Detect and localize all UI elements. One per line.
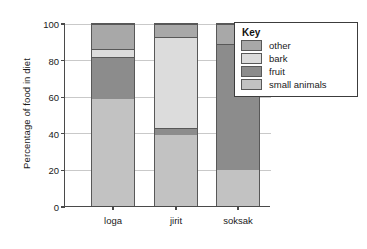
y-tick-label: 40: [48, 128, 59, 139]
y-tick-mark: [61, 60, 65, 61]
legend-title: Key: [242, 27, 351, 38]
legend-label: small animals: [269, 79, 327, 90]
legend-item-fruit: fruit: [241, 66, 351, 77]
x-tick-label-jirit: jirit: [170, 215, 182, 226]
legend-label: bark: [269, 53, 287, 64]
x-tick-mark: [175, 206, 176, 210]
bar-segment-small-animals: [217, 170, 259, 206]
x-tick-mark: [237, 206, 238, 210]
x-tick-label-loga: loga: [104, 215, 122, 226]
legend-swatch-icon: [241, 79, 262, 90]
bar-segment-bark: [155, 37, 197, 128]
bar-segment-other: [155, 24, 197, 37]
bar-segment-small-animals: [155, 135, 197, 206]
legend-label: fruit: [269, 66, 285, 77]
y-tick-mark: [61, 23, 65, 24]
y-axis-title: Percentage of food in diet: [21, 24, 32, 204]
y-tick-label: 60: [48, 92, 59, 103]
chart-figure: Percentage of food in diet 020406080100l…: [0, 0, 367, 249]
bar-segment-other: [92, 24, 134, 49]
y-tick-label: 80: [48, 55, 59, 66]
legend-swatch-icon: [241, 53, 262, 64]
legend-label: other: [269, 40, 291, 51]
legend-swatch-icon: [241, 66, 262, 77]
legend-item-other: other: [241, 40, 351, 51]
y-tick-mark: [61, 97, 65, 98]
y-tick-label: 20: [48, 165, 59, 176]
bar-loga: [91, 23, 135, 206]
y-tick-mark: [61, 133, 65, 134]
bar-segment-fruit: [92, 57, 134, 99]
y-tick-label: 100: [43, 19, 59, 30]
x-tick-label-soksak: soksak: [223, 215, 253, 226]
legend-item-small-animals: small animals: [241, 79, 351, 90]
legend-swatch-icon: [241, 40, 262, 51]
legend-item-bark: bark: [241, 53, 351, 64]
bar-jirit: [154, 23, 198, 206]
chart-legend: Key otherbarkfruitsmall animals: [234, 22, 358, 97]
bar-segment-small-animals: [92, 99, 134, 206]
y-tick-mark: [61, 170, 65, 171]
bar-segment-bark: [92, 49, 134, 56]
x-tick-mark: [112, 206, 113, 210]
bar-segment-fruit: [155, 128, 197, 135]
legend-items: otherbarkfruitsmall animals: [241, 40, 351, 90]
y-tick-label: 0: [54, 202, 59, 213]
y-tick-mark: [61, 206, 65, 207]
